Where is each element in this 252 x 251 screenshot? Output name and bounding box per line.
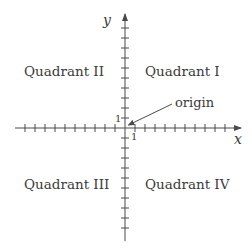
- x-axis: [15, 124, 241, 132]
- origin-annotation: origin: [129, 95, 215, 125]
- quadrant-ii-label: Quadrant II: [24, 63, 104, 79]
- y-axis-label: y: [102, 12, 112, 28]
- x-axis-label: x: [234, 131, 242, 147]
- quadrant-iv-label: Quadrant IV: [145, 176, 230, 192]
- quadrant-iii-label: Quadrant III: [24, 176, 109, 192]
- coordinate-plane-diagram: y x 1 1 Quadrant I Quadrant II Quadrant …: [0, 0, 252, 251]
- y-unit-label: 1: [115, 113, 121, 124]
- origin-label: origin: [175, 95, 215, 110]
- origin-leader-arrow: [129, 104, 173, 125]
- quadrant-i-label: Quadrant I: [145, 63, 220, 79]
- coordinate-plane: y x 1 1 Quadrant I Quadrant II Quadrant …: [0, 0, 252, 251]
- x-unit-label: 1: [131, 131, 137, 142]
